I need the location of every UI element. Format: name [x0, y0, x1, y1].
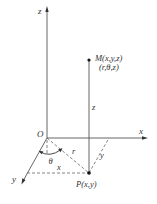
x-axis-arrow-icon: [142, 136, 148, 139]
radius-segment: [47, 138, 89, 173]
point-m: [87, 58, 90, 61]
y-projection-segment: [89, 138, 109, 173]
y-axis: y: [11, 138, 47, 185]
x-axis-label: x: [138, 126, 143, 136]
theta-label: θ: [49, 156, 53, 166]
y-axis-label: y: [11, 174, 16, 184]
x-axis: x: [47, 126, 148, 140]
theta-arrow-right-icon: [58, 148, 62, 152]
x-projection-label: x: [56, 162, 61, 172]
z-axis-label: z: [37, 6, 42, 16]
y-axis-arrow-icon: [22, 178, 26, 184]
point-p: [87, 171, 91, 175]
point-p-label: P(x,y): [75, 179, 97, 189]
z-axis: z: [37, 6, 49, 138]
origin-label: O: [37, 129, 44, 139]
z-axis-arrow-icon: [45, 6, 48, 12]
height-label: z: [91, 102, 96, 112]
point-m-cylindrical-label: (r,θ,z): [99, 62, 119, 72]
radius-label: r: [72, 146, 76, 156]
cylindrical-coordinates-diagram: z x y O z r x y θ M(x,y,z) (r,θ,z) P(x,y…: [0, 0, 157, 204]
y-projection-label: y: [99, 150, 104, 160]
